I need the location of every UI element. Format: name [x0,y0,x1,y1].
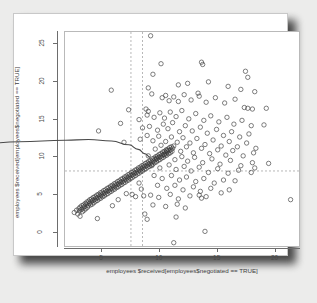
x-tick-label: 20 [271,254,278,261]
y-tick-label: 10 [38,153,45,160]
y-tick-label: 0 [36,230,43,234]
x-tick-mark [101,248,102,252]
y-axis-line [57,31,58,247]
plot-area [64,31,300,247]
x-tick-mark [217,248,218,252]
y-tick-mark [53,156,57,157]
y-tick-label: 20 [38,77,45,84]
y-axis-title: employees $received[employees$negotiated… [13,67,20,219]
x-tick-mark [159,248,160,252]
y-tick-mark [53,43,57,44]
x-tick-mark [275,248,276,252]
x-tick-label: 15 [213,254,220,261]
plot-card: 5101520 0510152025 employees $received[e… [13,13,288,256]
y-tick-mark [53,232,57,233]
y-tick-mark [53,81,57,82]
x-tick-label: 10 [155,254,162,261]
series-dense-diagonal-cluster [72,145,175,221]
figure-root: 5101520 0510152025 employees $received[e… [0,0,317,303]
y-tick-mark [53,119,57,120]
y-tick-label: 15 [38,115,45,122]
scatter-canvas [65,32,300,247]
series-diffuse-upper-right [96,34,292,245]
x-axis-title: employees $received[employees$negotiated… [106,267,258,274]
y-tick-label: 25 [38,39,45,46]
x-axis-line [64,248,300,249]
y-tick-label: 5 [36,192,43,196]
y-tick-mark [53,194,57,195]
x-tick-label: 5 [99,254,103,261]
